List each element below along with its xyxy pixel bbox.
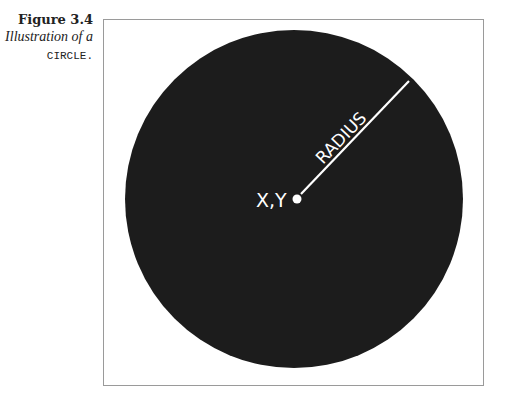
circle-illustration: X,Y RADIUS [0,0,513,410]
center-point-icon [293,195,302,204]
center-label: X,Y [256,189,287,211]
